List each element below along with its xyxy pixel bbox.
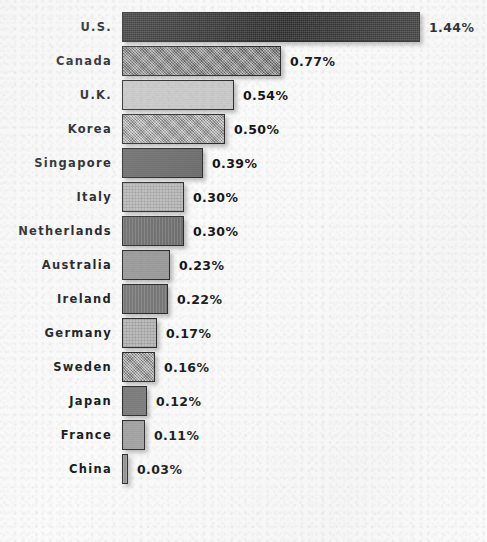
bar	[122, 454, 128, 484]
bar-value-label: 0.23%	[179, 248, 224, 282]
bar-row: Australia0.23%	[0, 248, 487, 282]
bar-fill	[122, 182, 184, 212]
bar-row: Netherlands0.30%	[0, 214, 487, 248]
bar-fill	[122, 114, 225, 144]
category-label: Australia	[0, 248, 112, 282]
bar-row: Singapore0.39%	[0, 146, 487, 180]
bar-value-label: 0.39%	[212, 146, 257, 180]
category-label: Sweden	[0, 350, 112, 384]
bar-row: Germany0.17%	[0, 316, 487, 350]
category-label: Germany	[0, 316, 112, 350]
bar-value-label: 1.44%	[429, 10, 474, 44]
bar-row: France0.11%	[0, 418, 487, 452]
category-label: Japan	[0, 384, 112, 418]
bar	[122, 352, 155, 382]
bar-value-label: 0.77%	[290, 44, 335, 78]
bar-fill	[122, 420, 145, 450]
bar	[122, 284, 168, 314]
bar-value-label: 0.50%	[234, 112, 279, 146]
bar	[122, 386, 147, 416]
bar-fill	[122, 216, 184, 246]
bar-fill	[122, 12, 420, 42]
bar-fill	[122, 148, 203, 178]
bar-row: Italy0.30%	[0, 180, 487, 214]
bar-fill	[122, 46, 281, 76]
bar	[122, 420, 145, 450]
category-label: U.S.	[0, 10, 112, 44]
bar-fill	[122, 284, 168, 314]
bar	[122, 114, 225, 144]
bar	[122, 216, 184, 246]
category-label: Italy	[0, 180, 112, 214]
category-label: Canada	[0, 44, 112, 78]
bar-row: Canada0.77%	[0, 44, 487, 78]
category-label: Singapore	[0, 146, 112, 180]
bar	[122, 80, 234, 110]
bar	[122, 250, 170, 280]
bar-fill	[122, 454, 128, 484]
bar-value-label: 0.30%	[193, 214, 238, 248]
category-label: France	[0, 418, 112, 452]
bar-fill	[122, 80, 234, 110]
bar-row: Ireland0.22%	[0, 282, 487, 316]
bar-value-label: 0.12%	[156, 384, 201, 418]
horizontal-bar-chart: U.S.1.44%Canada0.77%U.K.0.54%Korea0.50%S…	[0, 0, 487, 542]
bar	[122, 318, 157, 348]
category-label: Ireland	[0, 282, 112, 316]
category-label: Korea	[0, 112, 112, 146]
bar-value-label: 0.30%	[193, 180, 238, 214]
bar-value-label: 0.17%	[166, 316, 211, 350]
bar	[122, 148, 203, 178]
bar-value-label: 0.54%	[243, 78, 288, 112]
category-label: China	[0, 452, 112, 486]
category-label: U.K.	[0, 78, 112, 112]
bar-value-label: 0.16%	[164, 350, 209, 384]
bar	[122, 12, 420, 42]
bar-row: Korea0.50%	[0, 112, 487, 146]
bar-fill	[122, 386, 147, 416]
bar-value-label: 0.11%	[154, 418, 199, 452]
bar-fill	[122, 250, 170, 280]
bar-fill	[122, 318, 157, 348]
bar-value-label: 0.22%	[177, 282, 222, 316]
bar-row: China0.03%	[0, 452, 487, 486]
category-label: Netherlands	[0, 214, 112, 248]
bar-row: Sweden0.16%	[0, 350, 487, 384]
bar-row: Japan0.12%	[0, 384, 487, 418]
bar-fill	[122, 352, 155, 382]
bar-row: U.K.0.54%	[0, 78, 487, 112]
bar-row: U.S.1.44%	[0, 10, 487, 44]
bar	[122, 182, 184, 212]
bar	[122, 46, 281, 76]
bar-value-label: 0.03%	[137, 452, 182, 486]
